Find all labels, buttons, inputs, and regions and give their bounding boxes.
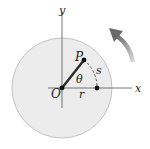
x-axis-label: x [135, 82, 142, 95]
arc-length-s-label: s [96, 64, 102, 77]
point-on-x-axis [95, 86, 100, 91]
rotation-arrow-icon [117, 36, 133, 62]
y-axis-label: y [58, 4, 66, 17]
radius-r-label: r [79, 88, 85, 101]
origin-label: O [51, 87, 61, 101]
point-P-label: P [74, 50, 84, 64]
angle-theta-label: θ [76, 73, 83, 86]
rotating-disk-diagram: y x O P θ s r [0, 0, 150, 149]
